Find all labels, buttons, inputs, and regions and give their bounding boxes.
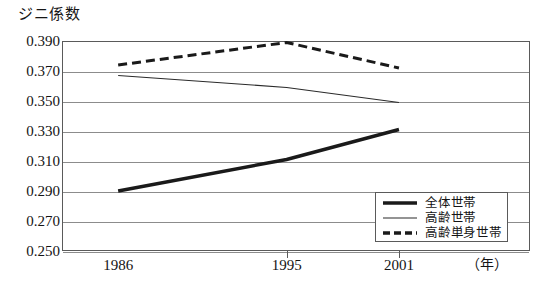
- y-tick-label: 0.330: [2, 124, 60, 139]
- y-tick-label: 0.290: [2, 184, 60, 199]
- y-tick-label: 0.370: [2, 64, 60, 79]
- x-tick-label: 2001: [384, 258, 414, 273]
- chart-axis-title: ジニ係数: [18, 2, 80, 23]
- gridline: [63, 252, 529, 253]
- x-tick-label: 1986: [103, 258, 133, 273]
- series-line-0: [118, 130, 399, 192]
- y-tick-label: 0.310: [2, 154, 60, 169]
- legend-item-1: 高齢世帯: [381, 211, 503, 225]
- legend-swatch-dashed-icon: [381, 227, 419, 239]
- y-tick-label: 0.250: [2, 244, 60, 259]
- legend-item-2: 高齢単身世帯: [381, 226, 503, 240]
- legend-label-0: 全体世帯: [425, 197, 476, 210]
- x-tick-label: 1995: [272, 258, 302, 273]
- chart-legend: 全体世帯 高齢世帯 高齢単身世帯: [375, 192, 508, 242]
- y-tick-label: 0.390: [2, 34, 60, 49]
- y-axis-tick-labels: 0.3900.3700.3500.3300.3100.2900.2700.250: [0, 41, 60, 251]
- legend-label-1: 高齢世帯: [425, 212, 476, 225]
- series-line-1: [118, 76, 399, 103]
- series-line-2: [118, 43, 399, 69]
- x-axis-unit-label: （年）: [466, 258, 508, 272]
- legend-swatch-thin-solid-icon: [381, 212, 419, 224]
- gini-coefficient-line-chart: ジニ係数 0.3900.3700.3500.3300.3100.2900.270…: [0, 0, 548, 292]
- y-tick-label: 0.270: [2, 214, 60, 229]
- legend-label-2: 高齢単身世帯: [425, 227, 502, 240]
- legend-item-0: 全体世帯: [381, 196, 503, 210]
- y-tick-label: 0.350: [2, 94, 60, 109]
- legend-swatch-thick-solid-icon: [381, 197, 419, 209]
